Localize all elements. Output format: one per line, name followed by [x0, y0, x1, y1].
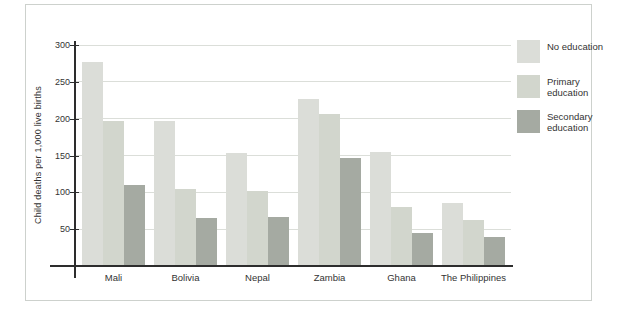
y-axis-tick-label-100: 100 — [32, 187, 70, 197]
bar-ghana-primary-education — [391, 207, 412, 266]
bar-group-ghana — [370, 45, 433, 266]
bar-ghana-secondary-education — [412, 233, 433, 266]
y-axis-tick-label-150: 150 — [32, 151, 70, 161]
bar-nepal-no-education — [226, 153, 247, 266]
y-axis-tick-label-200: 200 — [32, 114, 70, 124]
legend-swatch-no-education — [517, 40, 540, 63]
bar-ghana-no-education — [370, 152, 391, 266]
bar-bolivia-secondary-education — [196, 218, 217, 266]
bar-the-philippines-secondary-education — [484, 237, 505, 266]
y-axis-tick-250 — [70, 82, 79, 83]
y-axis-tick-label-50: 50 — [32, 224, 70, 234]
bar-bolivia-no-education — [154, 121, 175, 266]
x-axis-line — [50, 265, 513, 267]
bar-mali-primary-education — [103, 121, 124, 266]
legend-label-no-education: No education — [547, 40, 607, 52]
legend: No educationPrimary educationSecondary e… — [517, 40, 607, 145]
legend-label-primary-education: Primary education — [547, 75, 607, 98]
bar-group-the-philippines — [442, 45, 505, 266]
y-axis-tick-label-250: 250 — [32, 77, 70, 87]
y-axis-tick-100 — [70, 192, 79, 193]
y-axis-tick-200 — [70, 119, 79, 120]
x-category-label-the-philippines: The Philippines — [424, 272, 524, 283]
bar-zambia-no-education — [298, 99, 319, 266]
bar-the-philippines-primary-education — [463, 220, 484, 266]
plot-area — [75, 45, 511, 266]
y-axis-line — [74, 41, 76, 278]
bar-nepal-secondary-education — [268, 217, 289, 266]
y-axis-tick-300 — [70, 45, 79, 46]
legend-swatch-secondary-education — [517, 110, 540, 133]
bar-group-bolivia — [154, 45, 217, 266]
legend-swatch-primary-education — [517, 75, 540, 98]
bar-mali-no-education — [82, 62, 103, 266]
bar-zambia-primary-education — [319, 114, 340, 266]
bar-nepal-primary-education — [247, 191, 268, 266]
bar-the-philippines-no-education — [442, 203, 463, 266]
bar-zambia-secondary-education — [340, 158, 361, 266]
bar-mali-secondary-education — [124, 185, 145, 266]
legend-item-secondary-education: Secondary education — [517, 110, 607, 133]
chart-screenshot: Child deaths per 1,000 live births No ed… — [0, 0, 617, 310]
bar-group-nepal — [226, 45, 289, 266]
bar-group-zambia — [298, 45, 361, 266]
bar-bolivia-primary-education — [175, 189, 196, 266]
legend-item-no-education: No education — [517, 40, 607, 63]
chart-panel: Child deaths per 1,000 live births No ed… — [25, 4, 592, 301]
bar-group-mali — [82, 45, 145, 266]
y-axis-tick-label-300: 300 — [32, 40, 70, 50]
y-axis-tick-150 — [70, 156, 79, 157]
y-axis-tick-50 — [70, 229, 79, 230]
legend-label-secondary-education: Secondary education — [547, 110, 607, 133]
legend-item-primary-education: Primary education — [517, 75, 607, 98]
